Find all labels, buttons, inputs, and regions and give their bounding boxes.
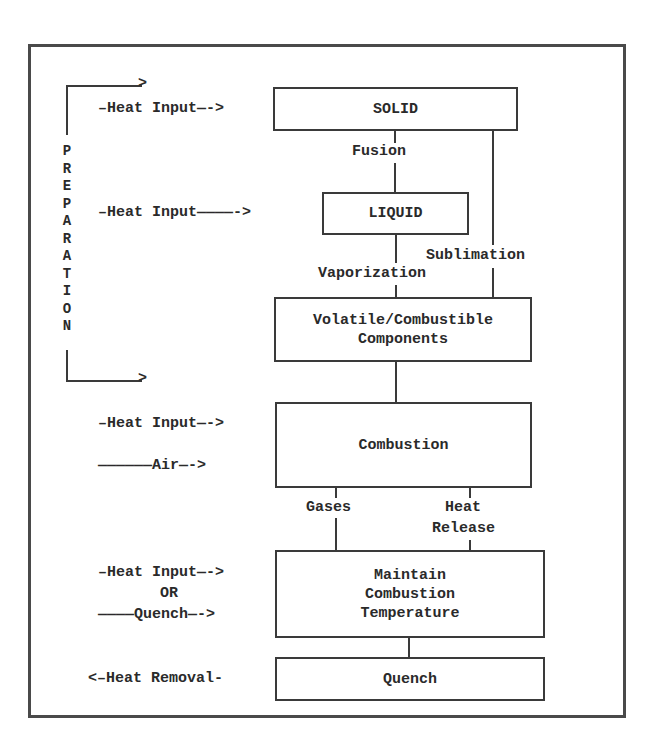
quench-box: Quench	[275, 657, 545, 701]
liquid-box: LIQUID	[322, 192, 469, 235]
vaporization-line-top	[395, 235, 397, 263]
quench-label: Quench	[383, 670, 437, 689]
preparation-bracket-bottom	[66, 350, 68, 380]
gases-line-bottom	[335, 518, 337, 551]
preparation-label: P R E P A R A T I O N	[60, 143, 74, 336]
volatile-to-combustion-line	[395, 362, 397, 403]
volatile-label-line1: Volatile/Combustible	[313, 311, 493, 330]
heat-removal-label: <–Heat Removal-	[88, 670, 223, 688]
preparation-arrow-top	[66, 85, 142, 87]
gases-line-top	[335, 488, 337, 498]
combustion-air-label: ——————Air—->	[98, 457, 206, 475]
volatile-label-line2: Components	[358, 330, 448, 349]
heat-release-label-line1: Heat	[445, 499, 481, 517]
sublimation-line-top	[492, 131, 494, 245]
sublimation-line-bottom	[492, 268, 494, 298]
maintain-to-quench-line	[408, 638, 410, 658]
fusion-label: Fusion	[352, 143, 406, 161]
solid-label: SOLID	[373, 100, 418, 119]
maintain-temperature-box: Maintain Combustion Temperature	[275, 550, 545, 638]
vaporization-label: Vaporization	[318, 265, 426, 283]
maintain-or-label: OR	[160, 585, 178, 603]
volatile-components-box: Volatile/Combustible Components	[274, 297, 532, 362]
combustion-label: Combustion	[358, 436, 448, 455]
heat-release-label-line2: Release	[432, 520, 495, 538]
heat-release-line-top	[469, 488, 471, 498]
sublimation-label: Sublimation	[426, 247, 525, 265]
solid-heat-input-label: –Heat Input—->	[98, 100, 224, 118]
preparation-arrow-bottom	[66, 380, 142, 382]
gases-label: Gases	[306, 499, 351, 517]
maintain-quench-label: ————Quench—->	[98, 606, 215, 624]
arrowhead-icon: >	[138, 370, 147, 388]
maintain-heat-input-label: –Heat Input—->	[98, 564, 224, 582]
arrowhead-icon: >	[138, 75, 147, 93]
maintain-label-line3: Temperature	[360, 604, 459, 623]
fusion-line-top	[394, 131, 396, 143]
solid-box: SOLID	[273, 87, 518, 131]
maintain-label-line1: Maintain	[374, 566, 446, 585]
liquid-heat-input-label: –Heat Input————->	[98, 204, 251, 222]
maintain-label-line2: Combustion	[365, 585, 455, 604]
fusion-line-bottom	[394, 163, 396, 193]
combustion-heat-input-label: –Heat Input—->	[98, 415, 224, 433]
combustion-box: Combustion	[275, 402, 532, 488]
preparation-bracket-top	[66, 85, 68, 135]
liquid-label: LIQUID	[368, 204, 422, 223]
